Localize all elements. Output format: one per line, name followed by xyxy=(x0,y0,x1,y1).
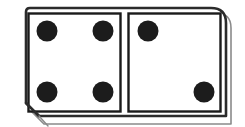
pip-left-top-left xyxy=(37,21,58,42)
pip-left-top-right xyxy=(93,21,114,42)
pip-left-bottom-right xyxy=(93,82,114,103)
pip-left-bottom-left xyxy=(37,82,58,103)
domino-tile xyxy=(0,0,245,127)
domino-half-right xyxy=(129,14,221,112)
image-canvas xyxy=(0,0,245,127)
pip-right-top-left xyxy=(138,21,159,42)
domino-half-left xyxy=(29,14,121,112)
pip-right-bottom-right xyxy=(194,82,215,103)
